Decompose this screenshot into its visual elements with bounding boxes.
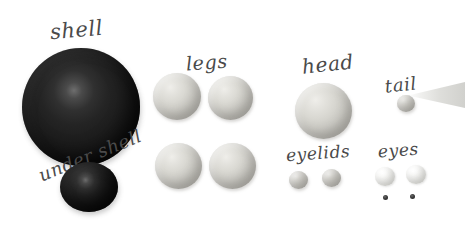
label-tail: tail [384,75,418,96]
label-eyelids: eyelids [285,144,350,165]
pupil-dot [383,195,388,200]
eye-ball [406,165,426,184]
clay-parts-layout: shell under shell legs head tail eyelids… [0,0,465,232]
leg-ball [153,73,201,120]
label-head: head [301,51,355,76]
eye-ball [375,167,395,186]
label-eyes: eyes [377,142,419,162]
leg-ball [155,143,202,189]
leg-ball [209,143,256,189]
head-ball [295,83,352,139]
eyelid-ball [289,171,308,189]
label-shell: shell [49,18,104,44]
under-shell-ball [60,162,118,212]
eyelid-ball [322,169,341,187]
label-legs: legs [185,53,228,75]
leg-ball [208,76,253,120]
tail-ball [397,95,415,112]
pupil-dot [410,194,415,199]
